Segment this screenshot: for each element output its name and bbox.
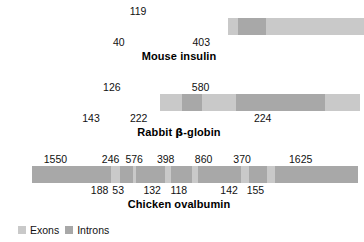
gene-segment-exon [165, 166, 172, 183]
segment-length-label: 222 [130, 111, 148, 125]
gene-segment-intron [249, 166, 268, 183]
gene-title: Chicken ovalbumin [0, 197, 358, 211]
segment-labels-below: 18853132118142155 [0, 183, 358, 197]
legend-item-exons: Exons [18, 224, 59, 236]
segment-length-label: 119 [130, 4, 147, 18]
gene-title: Mouse insulin [0, 49, 358, 63]
segment-length-label: 143 [82, 111, 100, 125]
segment-length-label: 126 [103, 80, 121, 94]
segment-length-label: 188 [91, 183, 109, 197]
segment-labels-above: 119 [0, 4, 358, 18]
segment-length-label: 40 [113, 35, 125, 49]
gene-segment-intron [238, 18, 267, 35]
segment-labels-below: 143222224 [0, 111, 358, 125]
segment-length-label: 403 [192, 35, 210, 49]
legend: Exons Introns [18, 224, 109, 236]
legend-label-exons: Exons [30, 224, 59, 236]
gene-segment-intron [182, 94, 201, 111]
segment-length-label: 53 [112, 183, 124, 197]
gene-title: Rabbit β-globin [0, 125, 358, 140]
segment-length-label: 155 [247, 183, 265, 197]
segment-labels-above: 15502465763988603701625 [0, 152, 358, 166]
gene-bar [228, 18, 364, 35]
gene-segment-intron [275, 166, 358, 183]
exon-swatch-icon [18, 226, 26, 234]
segment-length-label: 224 [254, 111, 272, 125]
segment-length-label: 370 [233, 152, 251, 166]
segment-length-label: 142 [220, 183, 238, 197]
legend-item-introns: Introns [65, 224, 109, 236]
gene-segment-exon [111, 166, 121, 183]
gene-segment-exon [160, 94, 182, 111]
gene-segment-exon [202, 94, 236, 111]
segment-length-label: 860 [195, 152, 213, 166]
gene-segment-intron [198, 166, 242, 183]
gene-segment-intron [171, 166, 191, 183]
segment-length-label: 580 [192, 80, 210, 94]
intron-swatch-icon [65, 226, 73, 234]
gene-row-mouse-insulin: 119 40403 Mouse insulin [0, 4, 358, 63]
gene-row-chicken-ovalbumin: 15502465763988603701625 1885313211814215… [0, 152, 358, 211]
gene-segment-intron [236, 94, 326, 111]
segment-labels-above: 126580 [0, 80, 358, 94]
gene-segment-exon [267, 166, 275, 183]
segment-length-label: 132 [143, 183, 161, 197]
segment-length-label: 1550 [44, 152, 67, 166]
gene-segment-exon [266, 18, 364, 35]
gene-segment-exon [241, 166, 248, 183]
segment-length-label: 398 [157, 152, 175, 166]
segment-length-label: 576 [125, 152, 143, 166]
legend-label-introns: Introns [77, 224, 109, 236]
gene-segment-intron [120, 166, 133, 183]
segment-length-label: 246 [102, 152, 120, 166]
gene-bar [160, 94, 360, 111]
gene-segment-intron [136, 166, 165, 183]
gene-segment-intron [32, 166, 111, 183]
gene-row-rabbit-beta-globin: 126580 143222224 Rabbit β-globin [0, 80, 358, 140]
gene-bar [32, 166, 358, 183]
gene-segment-exon [228, 18, 238, 35]
gene-segment-exon [325, 94, 360, 111]
segment-length-label: 118 [170, 183, 187, 197]
segment-length-label: 1625 [289, 152, 312, 166]
segment-labels-below: 40403 [0, 35, 358, 49]
